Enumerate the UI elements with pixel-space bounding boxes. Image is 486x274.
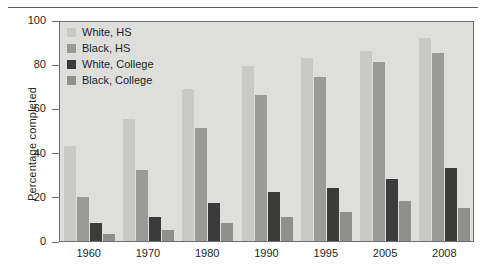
bar: [458, 208, 470, 241]
bar: [64, 146, 76, 241]
y-axis-tick: [52, 242, 59, 243]
x-axis-tick-label: 1980: [177, 247, 237, 259]
bar: [281, 217, 293, 241]
y-axis-tick-label: 80: [6, 59, 46, 70]
y-axis-tick: [52, 21, 59, 22]
x-axis-tick-label: 2008: [414, 247, 474, 259]
legend-item: Black, HS: [67, 42, 154, 55]
legend-item: White, HS: [67, 26, 154, 39]
y-axis-tick-label: 0: [6, 236, 46, 247]
bar: [419, 38, 431, 241]
bar: [255, 95, 267, 241]
y-axis-tick-label: 100: [6, 15, 46, 26]
bar: [195, 128, 207, 241]
bar: [77, 197, 89, 241]
chart-legend: White, HSBlack, HSWhite, CollegeBlack, C…: [67, 26, 154, 87]
top-divider-rule: [8, 7, 478, 8]
legend-item-label: White, HS: [82, 27, 132, 38]
bar: [386, 179, 398, 241]
y-axis-tick-label: 20: [6, 192, 46, 203]
legend-swatch-icon: [67, 44, 76, 53]
bar: [208, 203, 220, 241]
x-axis-tick-label: 1990: [237, 247, 297, 259]
legend-swatch-icon: [67, 28, 76, 37]
bar: [123, 119, 135, 241]
bar-group: [242, 22, 294, 241]
bar: [221, 223, 233, 241]
bar-group: [182, 22, 234, 241]
bar: [242, 66, 254, 241]
legend-item-label: White, College: [82, 59, 154, 70]
x-axis-tick-label: 2005: [355, 247, 415, 259]
x-axis-tick-label: 1970: [118, 247, 178, 259]
bar: [399, 201, 411, 241]
bar: [340, 212, 352, 241]
bar: [149, 217, 161, 241]
bar: [162, 230, 174, 241]
bar: [103, 234, 115, 241]
bar: [445, 168, 457, 241]
bar: [136, 170, 148, 241]
y-axis-tick-label: 40: [6, 148, 46, 159]
bar: [301, 58, 313, 241]
y-axis-tick: [52, 65, 59, 66]
bar: [360, 51, 372, 241]
y-axis-tick-label: 60: [6, 103, 46, 114]
bar: [314, 77, 326, 241]
legend-swatch-icon: [67, 76, 76, 85]
y-axis-tick: [52, 153, 59, 154]
legend-item: White, College: [67, 58, 154, 71]
y-axis-tick: [52, 197, 59, 198]
bar: [373, 62, 385, 241]
bar: [182, 89, 194, 241]
bar-group: [301, 22, 353, 241]
bar: [432, 53, 444, 241]
legend-item: Black, College: [67, 74, 154, 87]
y-axis-title: Percentage completed: [26, 59, 38, 229]
bar-group: [419, 22, 471, 241]
legend-item-label: Black, HS: [82, 43, 130, 54]
bar: [268, 192, 280, 241]
bar: [90, 223, 102, 241]
legend-item-label: Black, College: [82, 75, 152, 86]
bar-group: [360, 22, 412, 241]
bar: [327, 188, 339, 241]
legend-swatch-icon: [67, 60, 76, 69]
y-axis-tick: [52, 109, 59, 110]
x-axis-tick-label: 1960: [59, 247, 119, 259]
chart-figure: Percentage completed 020406080100 196019…: [0, 0, 486, 274]
x-axis-tick-label: 1995: [296, 247, 356, 259]
